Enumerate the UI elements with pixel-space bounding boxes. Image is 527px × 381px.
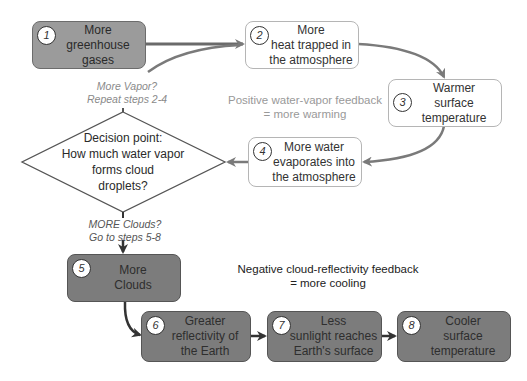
step-label: More heat trapped in the atmosphere xyxy=(269,23,352,68)
more-vapor-note: More Vapor? Repeat steps 2-4 xyxy=(72,80,182,106)
step-label: Greater reflectivity of the Earth xyxy=(172,314,239,359)
step-1-box: 1 More greenhouse gases xyxy=(32,21,146,69)
step-label: Less sunlight reaches Earth's surface xyxy=(290,314,377,359)
step-label: More greenhouse gases xyxy=(66,23,129,68)
arrow-2-to-3 xyxy=(358,44,444,77)
arrow-vapor-loop xyxy=(148,45,240,72)
step-number-badge: 5 xyxy=(72,259,91,278)
negative-feedback-note: Negative cloud-reflectivity feedback = m… xyxy=(228,262,428,290)
step-7-box: 7 Less sunlight reaches Earth's surface xyxy=(267,311,382,362)
step-4-box: 4 More water evaporates into the atmosph… xyxy=(248,137,362,187)
step-label: Warmer surface temperature xyxy=(422,81,487,126)
step-number-badge: 6 xyxy=(146,316,165,335)
step-number-badge: 4 xyxy=(253,142,272,161)
arrow-3-to-4 xyxy=(364,126,444,162)
arrow-5-to-6 xyxy=(125,302,140,335)
step-label: Cooler surface temperature xyxy=(431,314,496,359)
step-label: More water evaporates into the atmospher… xyxy=(272,140,355,185)
step-number-badge: 2 xyxy=(250,26,269,45)
step-number-badge: 3 xyxy=(393,93,412,112)
decision-label: Decision point: How much water vapor for… xyxy=(42,130,204,194)
step-3-box: 3 Warmer surface temperature xyxy=(388,79,502,127)
step-label: More Clouds xyxy=(114,263,151,293)
step-number-badge: 8 xyxy=(402,316,421,335)
step-6-box: 6 Greater reflectivity of the Earth xyxy=(141,311,251,362)
step-number-badge: 1 xyxy=(37,26,56,45)
step-2-box: 2 More heat trapped in the atmosphere xyxy=(245,21,359,69)
step-5-box: 5 More Clouds xyxy=(67,254,181,302)
step-8-box: 8 Cooler surface temperature xyxy=(397,311,511,362)
more-clouds-note: MORE Clouds? Go to steps 5-8 xyxy=(70,218,180,244)
positive-feedback-note: Positive water-vapor feedback = more war… xyxy=(220,93,390,121)
step-number-badge: 7 xyxy=(272,316,291,335)
